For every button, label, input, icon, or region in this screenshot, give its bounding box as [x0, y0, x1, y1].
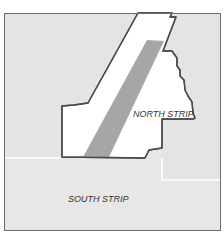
map-canvas: NORTH STRIP SOUTH STRIP — [0, 0, 224, 243]
map-figure: NORTH STRIP SOUTH STRIP — [0, 0, 224, 243]
south-strip-label: SOUTH STRIP — [68, 194, 129, 204]
north-strip-label: NORTH STRIP — [133, 109, 194, 119]
